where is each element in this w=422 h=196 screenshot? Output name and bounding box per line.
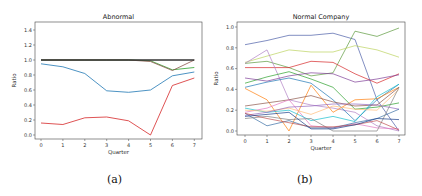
y-tick-label: 0.2 [24, 117, 32, 123]
x-tick-label: 5 [149, 142, 152, 148]
x-axis-label: Quarter [108, 149, 130, 155]
chart-title: Normal Company [293, 13, 350, 21]
series-line-s2 [41, 78, 194, 135]
caption-b: (b) [297, 173, 313, 186]
y-tick-label: 0.6 [226, 65, 234, 71]
x-tick-label: 3 [105, 142, 108, 148]
series-line-n9 [245, 85, 399, 131]
x-tick-label: 7 [397, 138, 400, 144]
x-tick-label: 5 [353, 138, 356, 144]
y-tick-label: 0.8 [226, 45, 234, 51]
y-tick-label: 0.4 [226, 86, 234, 92]
y-axis-label: Ratio [11, 73, 17, 88]
y-tick-label: 1.0 [24, 57, 32, 63]
x-tick-label: 1 [265, 138, 268, 144]
x-axis-label: Quarter [310, 145, 332, 151]
x-tick-label: 4 [331, 138, 334, 144]
x-tick-label: 6 [171, 142, 174, 148]
chart-title: Abnormal [103, 13, 135, 21]
x-tick-label: 0 [243, 138, 246, 144]
x-tick-label: 3 [309, 138, 312, 144]
series-line-s3 [41, 60, 194, 70]
series-line-n16 [245, 87, 399, 131]
figure: Abnormal0.00.20.40.60.81.01.21.401234567… [0, 0, 422, 196]
x-tick-label: 0 [39, 142, 42, 148]
y-tick-label: 0.8 [24, 72, 32, 78]
y-tick-label: 1.2 [24, 42, 32, 48]
y-tick-label: 0.0 [24, 132, 32, 138]
caption-a: (a) [107, 173, 122, 186]
y-tick-label: 1.4 [24, 27, 32, 33]
x-tick-label: 7 [193, 142, 196, 148]
chart-abnormal: Abnormal0.00.20.40.60.81.01.21.401234567… [11, 13, 202, 155]
x-tick-label: 6 [375, 138, 378, 144]
series-line-n14 [245, 104, 399, 115]
series-line-n3 [245, 46, 399, 63]
y-tick-label: 0.4 [24, 102, 32, 108]
series-line-n6 [245, 72, 399, 110]
y-tick-label: 0.6 [24, 87, 32, 93]
plot-frame [35, 22, 202, 139]
y-axis-label: Ratio [213, 71, 219, 86]
y-tick-label: 0.0 [226, 128, 234, 134]
chart-normal-company: Normal Company0.00.20.40.60.81.001234567… [213, 13, 405, 151]
series-line-n4 [245, 61, 399, 83]
x-tick-label: 2 [287, 138, 290, 144]
x-tick-label: 4 [127, 142, 130, 148]
y-tick-label: 1.0 [226, 24, 234, 30]
x-tick-label: 1 [61, 142, 64, 148]
y-tick-label: 0.2 [226, 107, 234, 113]
x-tick-label: 2 [83, 142, 86, 148]
